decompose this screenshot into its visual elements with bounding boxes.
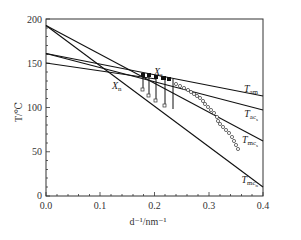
line-t-mcs xyxy=(46,26,263,142)
label-t-mcn: Tmcn xyxy=(241,174,258,188)
svg-text:150: 150 xyxy=(27,58,42,69)
line-t-an xyxy=(46,63,156,79)
y-axis-title: T/℃ xyxy=(13,102,24,122)
x-axis xyxy=(46,192,263,196)
label-t-am: Tam xyxy=(244,83,259,96)
x-axis-title: d⁻¹/nm⁻¹ xyxy=(129,216,166,227)
label-t-acs: Tacs xyxy=(244,108,258,122)
y-axis xyxy=(46,19,50,196)
svg-text:0.0: 0.0 xyxy=(40,200,53,211)
label-xn: Xn xyxy=(111,80,122,93)
svg-text:100: 100 xyxy=(27,102,42,113)
line-t-mcn xyxy=(46,26,263,188)
x-tick-labels: 0.0 0.1 0.2 0.3 0.4 xyxy=(40,200,270,211)
svg-text:0.3: 0.3 xyxy=(203,200,216,211)
svg-text:0.4: 0.4 xyxy=(257,200,270,211)
svg-text:200: 200 xyxy=(27,14,42,25)
y-tick-labels: 0 50 100 150 200 xyxy=(27,14,42,201)
lines xyxy=(46,26,263,188)
label-t-mcs: Tmcs xyxy=(242,134,258,148)
plot-frame xyxy=(46,19,263,196)
phase-diagram-chart: 0 50 100 150 200 0.0 0.1 0.2 0.3 0.4 d⁻¹… xyxy=(0,0,301,240)
svg-text:0.1: 0.1 xyxy=(94,200,107,211)
svg-text:50: 50 xyxy=(32,146,42,157)
svg-text:0.2: 0.2 xyxy=(148,200,161,211)
